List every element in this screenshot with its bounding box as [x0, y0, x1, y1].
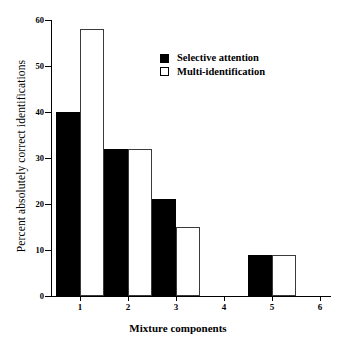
y-axis-label: Percent absolutely correct identificatio…	[15, 26, 27, 286]
bar-selective-attention-3	[152, 199, 176, 296]
x-axis-label: Mixture components	[0, 322, 356, 334]
bar-multi-identification-2	[128, 149, 152, 296]
bar-selective-attention-5	[248, 255, 272, 296]
legend-item-selective-attention: Selective attention	[160, 53, 265, 64]
bar-multi-identification-5	[272, 255, 296, 296]
chart-legend: Selective attention Multi-identification	[160, 53, 265, 80]
filled-square-icon	[160, 54, 169, 63]
legend-label: Multi-identification	[177, 67, 265, 78]
legend-label: Selective attention	[177, 53, 259, 64]
bar-multi-identification-1	[80, 29, 104, 296]
legend-item-multi-identification: Multi-identification	[160, 67, 265, 78]
open-square-icon	[160, 67, 169, 76]
bar-selective-attention-1	[56, 112, 80, 296]
bar-selective-attention-2	[104, 149, 128, 296]
bar-multi-identification-3	[176, 227, 200, 296]
chart-figure: 0102030405060 123456 Percent absolutely …	[0, 0, 356, 351]
